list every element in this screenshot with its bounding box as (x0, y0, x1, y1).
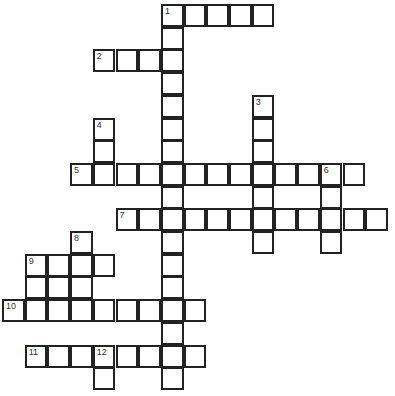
clue-number: 2 (97, 52, 102, 61)
crossword-cell[interactable] (161, 276, 184, 299)
crossword-cell[interactable] (25, 299, 48, 322)
crossword-cell[interactable] (343, 208, 366, 231)
crossword-cell[interactable] (297, 208, 320, 231)
clue-number: 9 (29, 257, 34, 266)
crossword-cell[interactable] (184, 4, 207, 27)
crossword-cell[interactable] (161, 345, 184, 368)
crossword-cell[interactable] (70, 345, 93, 368)
crossword-cell[interactable]: 1 (161, 4, 184, 27)
crossword-cell[interactable] (297, 163, 320, 186)
clue-number: 1 (165, 7, 170, 16)
clue-number: 7 (120, 211, 125, 220)
crossword-cell[interactable] (184, 208, 207, 231)
crossword-cell[interactable] (320, 186, 343, 209)
crossword-cell[interactable]: 11 (25, 345, 48, 368)
crossword-cell[interactable] (47, 299, 70, 322)
clue-number: 5 (74, 166, 79, 175)
crossword-cell[interactable] (206, 163, 229, 186)
crossword-cell[interactable] (116, 163, 139, 186)
clue-number: 10 (6, 302, 16, 311)
crossword-cell[interactable] (93, 367, 116, 390)
crossword-cell[interactable] (70, 299, 93, 322)
crossword-cell[interactable] (116, 299, 139, 322)
crossword-cell[interactable]: 9 (25, 254, 48, 277)
clue-number: 4 (97, 121, 102, 130)
crossword-cell[interactable] (365, 208, 388, 231)
crossword-cell[interactable] (116, 49, 139, 72)
crossword-cell[interactable] (93, 140, 116, 163)
clue-number: 6 (324, 166, 329, 175)
crossword-cell[interactable]: 8 (70, 231, 93, 254)
crossword-cell[interactable] (229, 208, 252, 231)
crossword-cell[interactable]: 10 (2, 299, 25, 322)
crossword-cell[interactable] (47, 254, 70, 277)
crossword-cell[interactable] (161, 163, 184, 186)
crossword-cell[interactable] (161, 49, 184, 72)
crossword-cell[interactable] (161, 367, 184, 390)
crossword-cell[interactable] (161, 27, 184, 50)
clue-number: 12 (97, 348, 107, 357)
crossword-cell[interactable] (47, 276, 70, 299)
clue-number: 11 (29, 348, 38, 357)
crossword-cell[interactable] (161, 140, 184, 163)
crossword-cell[interactable] (229, 4, 252, 27)
clue-number: 8 (74, 234, 79, 243)
crossword-cell[interactable] (252, 163, 275, 186)
crossword-cell[interactable]: 12 (93, 345, 116, 368)
crossword-cell[interactable] (252, 140, 275, 163)
crossword-cell[interactable]: 6 (320, 163, 343, 186)
crossword-cell[interactable] (161, 254, 184, 277)
crossword-cell[interactable] (206, 4, 229, 27)
clue-number: 3 (256, 98, 261, 107)
crossword-cell[interactable] (206, 208, 229, 231)
crossword-cell[interactable] (274, 208, 297, 231)
crossword-cell[interactable] (161, 208, 184, 231)
crossword-cell[interactable] (252, 186, 275, 209)
crossword-cell[interactable] (138, 49, 161, 72)
crossword-cell[interactable] (93, 299, 116, 322)
crossword-cell[interactable]: 5 (70, 163, 93, 186)
crossword-cell[interactable] (161, 118, 184, 141)
crossword-cell[interactable]: 3 (252, 95, 275, 118)
crossword-cell[interactable] (138, 163, 161, 186)
crossword-cell[interactable] (70, 254, 93, 277)
crossword-cell[interactable] (161, 231, 184, 254)
crossword-cell[interactable] (116, 345, 139, 368)
crossword-grid: 123456789101112 (0, 0, 395, 396)
crossword-cell[interactable] (343, 163, 366, 186)
crossword-cell[interactable] (161, 322, 184, 345)
crossword-cell[interactable] (274, 163, 297, 186)
crossword-cell[interactable] (252, 118, 275, 141)
crossword-cell[interactable]: 2 (93, 49, 116, 72)
crossword-cell[interactable]: 4 (93, 118, 116, 141)
crossword-cell[interactable] (252, 231, 275, 254)
crossword-cell[interactable] (93, 163, 116, 186)
crossword-cell[interactable] (184, 345, 207, 368)
crossword-cell[interactable] (320, 231, 343, 254)
crossword-cell[interactable] (138, 208, 161, 231)
crossword-cell[interactable] (252, 208, 275, 231)
crossword-cell[interactable] (47, 345, 70, 368)
crossword-cell[interactable] (161, 186, 184, 209)
crossword-cell[interactable]: 7 (116, 208, 139, 231)
crossword-cell[interactable] (184, 163, 207, 186)
crossword-cell[interactable] (161, 72, 184, 95)
crossword-cell[interactable] (93, 254, 116, 277)
crossword-cell[interactable] (184, 299, 207, 322)
crossword-cell[interactable] (138, 299, 161, 322)
crossword-cell[interactable] (252, 4, 275, 27)
crossword-cell[interactable] (161, 299, 184, 322)
crossword-cell[interactable] (229, 163, 252, 186)
crossword-cell[interactable] (320, 208, 343, 231)
crossword-cell[interactable] (70, 276, 93, 299)
crossword-cell[interactable] (161, 95, 184, 118)
crossword-cell[interactable] (138, 345, 161, 368)
crossword-cell[interactable] (25, 276, 48, 299)
